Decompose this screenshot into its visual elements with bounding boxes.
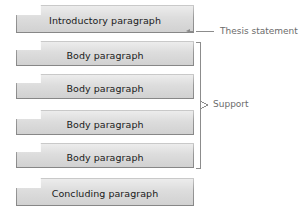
block-label: Body paragraph: [16, 110, 194, 135]
thesis-statement-label: Thesis statement: [220, 26, 298, 36]
block-body-paragraph-4: Body paragraph: [16, 143, 194, 168]
support-bracket: [196, 42, 208, 168]
block-body-paragraph-3: Body paragraph: [16, 110, 194, 135]
essay-structure-diagram: Introductory paragraph Body paragraph Bo…: [0, 0, 304, 217]
support-label: Support: [213, 99, 249, 109]
block-label: Body paragraph: [16, 74, 194, 99]
block-label: Body paragraph: [16, 41, 194, 66]
block-body-paragraph-1: Body paragraph: [16, 41, 194, 66]
block-label: Concluding paragraph: [16, 178, 194, 206]
block-concluding-paragraph: Concluding paragraph: [16, 178, 194, 206]
block-body-paragraph-2: Body paragraph: [16, 74, 194, 99]
block-introductory-paragraph: Introductory paragraph: [16, 5, 194, 33]
block-label: Introductory paragraph: [16, 5, 194, 33]
block-label: Body paragraph: [16, 143, 194, 168]
